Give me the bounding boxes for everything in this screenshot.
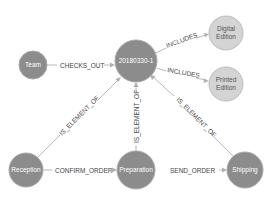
node-label-shipping: Shipping: [232, 166, 258, 174]
edge-checks-out[interactable]: CHECKS_OUT: [47, 62, 115, 70]
arrowhead-icon: [112, 168, 117, 173]
arrowhead-icon: [222, 168, 227, 173]
arrowhead-icon: [110, 63, 115, 68]
edge-label-reception-is-element-of: IS_ELEMENT_OF: [58, 94, 101, 137]
edge-label-preparation-is-element-of: IS_ELEMENT_OF: [133, 90, 141, 143]
node-label-team: Team: [25, 61, 41, 68]
edge-label-includes-printed: INCLUDES: [167, 66, 201, 79]
node-label-printed-line1: Printed: [216, 76, 237, 83]
node-preparation[interactable]: Preparation: [117, 151, 155, 189]
node-label-preparation: Preparation: [119, 166, 153, 174]
node-team[interactable]: Team: [19, 51, 47, 79]
edge-label-confirm-order: CONFIRM_ORDER: [55, 167, 113, 175]
node-order-20180330-1[interactable]: 20180330-1: [115, 40, 157, 82]
node-label-digital-line2: Edition: [216, 33, 236, 40]
arrowhead-icon: [134, 82, 139, 87]
arrowhead-icon: [204, 33, 209, 38]
edge-send-order[interactable]: SEND_ORDER: [170, 167, 227, 175]
graph-canvas: CHECKS_OUT INCLUDES INCLUDES IS_ELEMENT_…: [0, 0, 278, 202]
node-label-order: 20180330-1: [119, 57, 154, 64]
arrowhead-icon: [204, 79, 210, 84]
edge-preparation-is-element-of[interactable]: IS_ELEMENT_OF: [133, 82, 141, 151]
node-shipping[interactable]: Shipping: [227, 152, 263, 188]
edge-label-checks-out: CHECKS_OUT: [60, 62, 104, 70]
edge-label-includes-digital: INCLUDES: [165, 31, 199, 49]
edge-includes-digital[interactable]: INCLUDES: [156, 31, 209, 53]
edge-reception-is-element-of[interactable]: IS_ELEMENT_OF: [38, 77, 121, 157]
edge-includes-printed[interactable]: INCLUDES: [157, 66, 209, 83]
node-digital-edition[interactable]: Digital Edition: [209, 16, 243, 50]
edge-label-send-order: SEND_ORDER: [170, 167, 215, 175]
edge-label-shipping-is-element-of: IS_ELEMENT_OF: [175, 96, 218, 139]
node-label-reception: Reception: [11, 166, 41, 174]
edge-confirm-order[interactable]: CONFIRM_ORDER: [44, 167, 117, 175]
node-label-printed-line2: Edition: [216, 84, 236, 91]
node-reception[interactable]: Reception: [9, 153, 43, 187]
node-printed-edition[interactable]: Printed Edition: [209, 67, 243, 101]
